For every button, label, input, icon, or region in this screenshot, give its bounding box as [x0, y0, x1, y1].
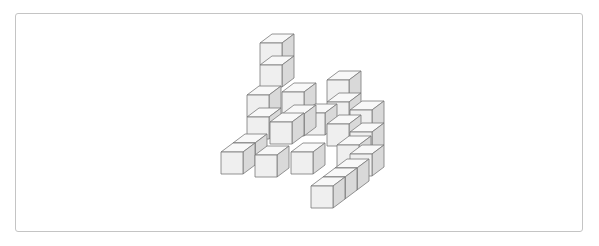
- cube-front-face: [221, 152, 243, 174]
- cube: [221, 143, 255, 174]
- cube-front-face: [255, 155, 277, 177]
- cube-front-face: [270, 122, 292, 144]
- cube-front-face: [311, 186, 333, 208]
- cube-front-face: [260, 65, 282, 87]
- cube: [291, 143, 325, 174]
- cube-stack-illustration: [0, 0, 599, 246]
- cube-front-face: [291, 152, 313, 174]
- cube: [311, 177, 345, 208]
